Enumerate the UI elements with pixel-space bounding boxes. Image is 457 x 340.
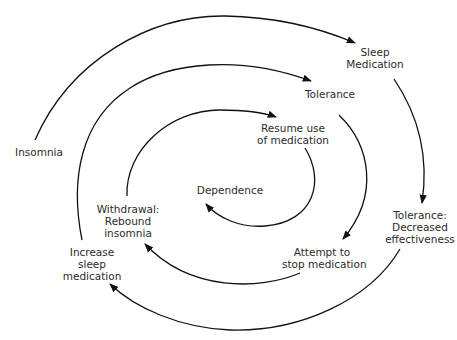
node-sleep-medication: Sleep Medication xyxy=(340,46,410,70)
node-tolerance-decreased-effectiveness: Tolerance: Decreased effectiveness xyxy=(382,209,457,245)
arrow-sleep-medication-to-tolerance-decreased xyxy=(394,79,424,203)
node-tolerance: Tolerance xyxy=(300,88,360,100)
node-resume-use-of-medication: Resume use of medication xyxy=(255,122,331,146)
node-withdrawal-rebound-insomnia: Withdrawal: Rebound insomnia xyxy=(95,203,161,239)
node-dependence: Dependence xyxy=(195,184,265,196)
node-attempt-to-stop-medication: Attempt to stop medication xyxy=(282,246,362,270)
node-increase-sleep-medication: Increase sleep medication xyxy=(60,246,124,282)
node-insomnia: Insomnia xyxy=(14,146,64,158)
arrow-attempt-stop-to-withdrawal xyxy=(145,244,300,284)
arrow-tolerance-to-attempt-stop xyxy=(339,115,367,239)
